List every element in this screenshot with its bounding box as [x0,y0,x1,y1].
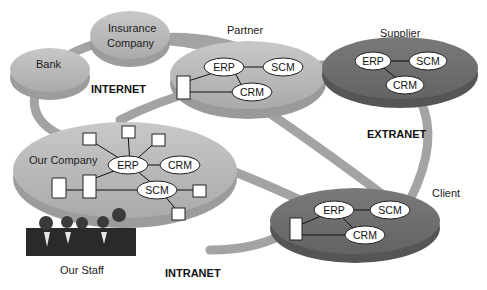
svg-text:ERP: ERP [117,159,139,171]
svg-text:SCM: SCM [145,184,168,196]
client-node: Client ERP SCM CRM [270,187,460,263]
server-icon [290,218,302,240]
our-company-label: Our Company [29,154,98,166]
svg-text:CRM: CRM [393,79,417,91]
extranet-zone-label: EXTRANET [367,128,427,140]
svg-text:SCM: SCM [378,204,401,216]
svg-text:CRM: CRM [240,86,264,98]
insurance-node: Insurance Company [90,11,170,67]
internet-zone-label: INTERNET [91,83,146,95]
svg-text:ERP: ERP [213,61,235,73]
supplier-node: Supplier ERP SCM CRM [322,27,478,108]
staff-illustration: Our Staff [26,208,136,276]
staff-label: Our Staff [60,264,105,276]
svg-text:CRM: CRM [353,229,377,241]
client-label: Client [432,187,460,199]
bank-node: Bank [10,48,90,100]
svg-text:ERP: ERP [362,55,384,67]
svg-text:Company: Company [107,37,155,49]
svg-text:ERP: ERP [323,204,345,216]
svg-text:CRM: CRM [168,159,192,171]
network-diagram: Bank Insurance Company Partner ERP SCM C… [0,0,487,290]
intranet-zone-label: INTRANET [165,267,221,279]
svg-text:Insurance: Insurance [108,22,156,34]
svg-text:SCM: SCM [416,55,439,67]
bank-label: Bank [36,58,62,70]
svg-text:SCM: SCM [271,61,294,73]
partner-label: Partner [227,24,263,36]
